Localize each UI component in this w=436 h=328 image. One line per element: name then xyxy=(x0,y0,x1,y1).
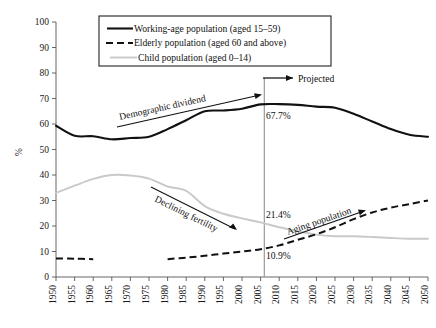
legend-label-working-age: Working-age population (aged 15–59) xyxy=(134,23,281,35)
legend-item-working-age[interactable]: Working-age population (aged 15–59) xyxy=(107,23,281,35)
y-tick-label: 70 xyxy=(40,94,50,104)
x-tick-label: 1995 xyxy=(215,285,225,304)
y-tick-label: 100 xyxy=(35,17,50,27)
x-tick-label: 1975 xyxy=(141,285,151,304)
x-tick-label: 1955 xyxy=(67,285,77,304)
y-tick-label: 60 xyxy=(40,119,50,129)
y-tick-label: 80 xyxy=(40,68,50,78)
legend-label-child: Child population (aged 0–14) xyxy=(138,52,251,64)
x-tick-label: 1950 xyxy=(48,285,58,304)
y-axis-title: % xyxy=(14,148,24,156)
series-line-working-age-population xyxy=(56,104,428,139)
x-tick-label: 2000 xyxy=(234,285,244,304)
y-tick-label: 10 xyxy=(40,247,50,257)
series-group xyxy=(56,104,428,259)
y-tick-label: 0 xyxy=(44,272,49,282)
series-line-elderly-population-early xyxy=(56,258,93,259)
x-tick-label: 2010 xyxy=(271,285,281,304)
arrowhead-icon xyxy=(286,75,293,81)
annotation-label-declining-fertility: Declining fertility xyxy=(153,193,220,234)
x-tick-label: 2035 xyxy=(364,285,374,304)
x-tick-label: 2020 xyxy=(308,285,318,304)
population-trend-chart: 0102030405060708090100 19501955196019651… xyxy=(0,0,436,328)
y-axis-ticks xyxy=(52,22,56,277)
legend-item-elderly[interactable]: Elderly population (aged 60 and above) xyxy=(106,37,286,49)
x-tick-label: 1990 xyxy=(197,285,207,304)
legend-label-elderly: Elderly population (aged 60 and above) xyxy=(134,37,286,49)
chart-canvas: 0102030405060708090100 19501955196019651… xyxy=(0,0,436,328)
x-tick-label: 1970 xyxy=(122,285,132,304)
annotation-aging-population: Aging population xyxy=(284,204,366,239)
x-tick-label: 2025 xyxy=(327,285,337,304)
y-tick-label: 50 xyxy=(40,145,50,155)
x-tick-label: 2040 xyxy=(383,285,393,304)
x-tick-label: 2030 xyxy=(346,285,356,304)
x-tick-label: 1980 xyxy=(160,285,170,304)
x-tick-label: 2005 xyxy=(253,285,263,304)
annotation-label-projected: Projected xyxy=(298,73,334,84)
x-tick-label: 2015 xyxy=(290,285,300,304)
x-tick-label: 2050 xyxy=(420,285,430,304)
x-axis-ticks xyxy=(56,277,428,281)
arrowhead-icon xyxy=(229,223,237,230)
x-tick-label: 1985 xyxy=(178,285,188,304)
x-tick-label: 1965 xyxy=(104,285,114,304)
value-label-elderly-2005: 10.9% xyxy=(266,250,291,261)
series-line-child-population xyxy=(56,175,428,239)
annotation-projected: Projected xyxy=(263,73,334,84)
y-tick-label: 30 xyxy=(40,196,50,206)
annotation-declining-fertility: Declining fertility xyxy=(151,187,237,234)
y-axis-tick-labels: 0102030405060708090100 xyxy=(35,17,50,282)
x-axis-tick-labels: 1950195519601965197019751980198519901995… xyxy=(48,285,430,304)
x-tick-label: 1960 xyxy=(85,285,95,304)
annotation-label-aging-population: Aging population xyxy=(285,204,353,236)
arrowhead-icon xyxy=(254,93,262,99)
y-tick-label: 90 xyxy=(40,43,50,53)
x-tick-label: 2045 xyxy=(401,285,411,304)
value-label-child-2005: 21.4% xyxy=(266,209,291,220)
value-label-working-2005: 67.7% xyxy=(266,110,291,121)
legend: Working-age population (aged 15–59) Elde… xyxy=(99,16,331,66)
y-tick-label: 40 xyxy=(40,170,50,180)
y-tick-label: 20 xyxy=(40,221,50,231)
